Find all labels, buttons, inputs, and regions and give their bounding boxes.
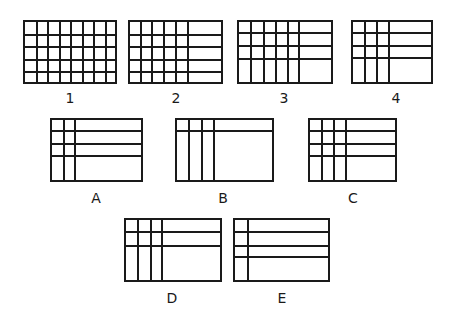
grid-figure-2: [128, 20, 223, 84]
grid-column-line: [250, 22, 252, 82]
figure-label-b: B: [208, 190, 238, 206]
grid-row-line: [130, 34, 221, 36]
grid-row-line: [177, 130, 272, 132]
figure-label-4: 4: [381, 90, 411, 106]
grid-column-line: [364, 22, 366, 82]
grid-row-line: [52, 143, 141, 145]
grid-row-line: [130, 71, 221, 73]
grid-row-line: [130, 46, 221, 48]
figure-label-c: C: [338, 190, 368, 206]
grid-column-line: [163, 22, 165, 82]
grid-row-line: [235, 245, 328, 247]
grid-column-line: [247, 220, 249, 280]
grid-row-line: [126, 245, 220, 247]
grid-column-line: [345, 120, 347, 180]
grid-column-line: [150, 220, 152, 280]
grid-column-line: [298, 22, 300, 82]
grid-row-line: [239, 58, 331, 60]
grid-row-line: [310, 143, 395, 145]
grid-row-line: [239, 32, 331, 34]
grid-column-line: [59, 22, 61, 82]
grid-figure-d: [124, 218, 222, 282]
grid-column-line: [201, 120, 203, 180]
grid-column-line: [175, 22, 177, 82]
grid-figure-b: [175, 118, 274, 182]
grid-figure-a: [50, 118, 143, 182]
figure-label-1: 1: [55, 90, 85, 106]
grid-column-line: [263, 22, 265, 82]
figure-label-2: 2: [161, 90, 191, 106]
grid-row-line: [235, 256, 328, 258]
grid-row-line: [52, 130, 141, 132]
grid-row-line: [353, 32, 431, 34]
grid-row-line: [239, 45, 331, 47]
figure-label-a: A: [81, 190, 111, 206]
grid-figure-4: [351, 20, 433, 84]
figure-label-d: D: [157, 290, 187, 306]
grid-column-line: [187, 22, 189, 82]
grid-column-line: [74, 120, 76, 180]
grid-column-line: [151, 22, 153, 82]
grid-row-line: [235, 231, 328, 233]
grid-figure-e: [233, 218, 330, 282]
grid-row-line: [25, 71, 115, 73]
grid-column-line: [70, 22, 72, 82]
grid-figure-1: [23, 20, 117, 84]
grid-column-line: [188, 120, 190, 180]
figure-label-e: E: [267, 290, 297, 306]
grid-column-line: [36, 22, 38, 82]
grid-row-line: [353, 45, 431, 47]
grid-figure-c: [308, 118, 397, 182]
grid-column-line: [82, 22, 84, 82]
grid-row-line: [130, 59, 221, 61]
grid-row-line: [52, 155, 141, 157]
grid-column-line: [47, 22, 49, 82]
grid-column-line: [287, 22, 289, 82]
grid-column-line: [213, 120, 215, 180]
grid-column-line: [161, 220, 163, 280]
grid-column-line: [93, 22, 95, 82]
grid-column-line: [333, 120, 335, 180]
grid-row-line: [25, 46, 115, 48]
grid-row-line: [310, 130, 395, 132]
grid-column-line: [63, 120, 65, 180]
grid-column-line: [140, 22, 142, 82]
figure-label-3: 3: [269, 90, 299, 106]
grid-row-line: [25, 34, 115, 36]
grid-row-line: [353, 57, 431, 59]
grid-column-line: [388, 22, 390, 82]
grid-row-line: [126, 231, 220, 233]
grid-column-line: [376, 22, 378, 82]
grid-column-line: [275, 22, 277, 82]
grid-row-line: [25, 59, 115, 61]
grid-column-line: [321, 120, 323, 180]
grid-figure-3: [237, 20, 333, 84]
grid-row-line: [310, 155, 395, 157]
grid-column-line: [137, 220, 139, 280]
grid-column-line: [105, 22, 107, 82]
